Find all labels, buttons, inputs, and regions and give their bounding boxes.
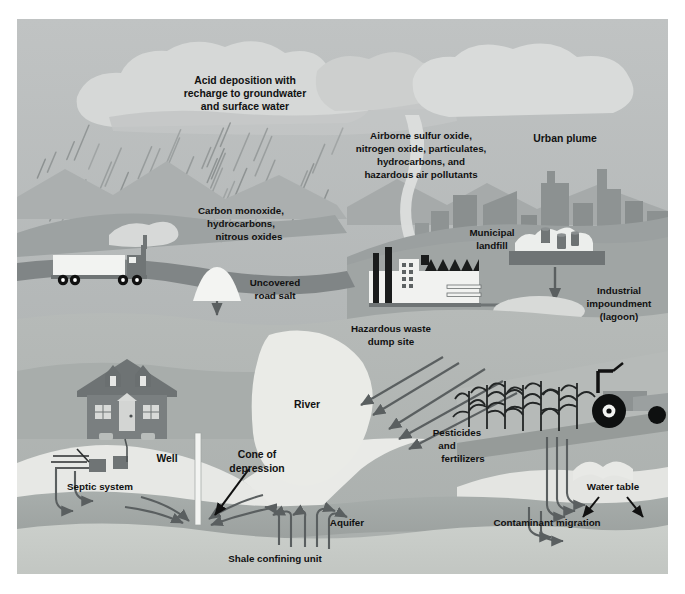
svg-text:landfill: landfill bbox=[476, 240, 508, 251]
subsurface-block bbox=[17, 310, 668, 574]
svg-text:hydrocarbons, and: hydrocarbons, and bbox=[377, 156, 465, 167]
svg-text:Uncovered: Uncovered bbox=[250, 277, 301, 288]
label-urban-plume: Urban plume bbox=[533, 133, 597, 144]
svg-text:road salt: road salt bbox=[255, 290, 297, 301]
factory-base-shadow bbox=[369, 303, 481, 307]
well bbox=[195, 433, 201, 525]
svg-text:dump site: dump site bbox=[368, 336, 415, 347]
label-aquifer: Aquifer bbox=[330, 517, 364, 528]
label-acid-deposition: Acid deposition with recharge to groundw… bbox=[184, 75, 306, 112]
tractor-front-wheel bbox=[648, 406, 666, 424]
svg-text:Industrial: Industrial bbox=[597, 285, 641, 296]
factory-smokestack bbox=[385, 247, 392, 305]
svg-text:nitrogen oxide, particulates,: nitrogen oxide, particulates, bbox=[356, 143, 487, 154]
svg-text:hydrocarbons,: hydrocarbons, bbox=[207, 218, 275, 229]
svg-text:impoundment: impoundment bbox=[587, 298, 652, 309]
svg-text:Hazardous waste: Hazardous waste bbox=[351, 323, 432, 334]
house-foundation-vent bbox=[99, 433, 113, 440]
svg-text:(lagoon): (lagoon) bbox=[600, 311, 639, 322]
house-door bbox=[119, 401, 135, 431]
label-river: River bbox=[294, 399, 320, 410]
svg-text:Airborne sulfur oxide,: Airborne sulfur oxide, bbox=[370, 130, 472, 141]
svg-text:fertilizers: fertilizers bbox=[441, 453, 485, 464]
svg-text:Municipal: Municipal bbox=[469, 227, 514, 238]
svg-text:hazardous air pollutants: hazardous air pollutants bbox=[364, 169, 478, 180]
landfill-barrel bbox=[557, 235, 566, 249]
svg-text:depression: depression bbox=[229, 463, 284, 474]
label-septic-system: Septic system bbox=[67, 481, 133, 492]
factory-roof-vent bbox=[421, 255, 429, 265]
well-casing bbox=[195, 433, 201, 525]
label-water-table: Water table bbox=[587, 481, 640, 492]
label-contaminant-migration: Contaminant migration bbox=[493, 517, 600, 528]
house-foundation-vent bbox=[141, 433, 155, 440]
truck-trailer bbox=[53, 255, 125, 277]
svg-text:nitrous oxides: nitrous oxides bbox=[216, 231, 284, 242]
groundwater-contamination-diagram: Acid deposition with recharge to groundw… bbox=[17, 19, 668, 574]
figure-root: Acid deposition with recharge to groundw… bbox=[0, 0, 685, 594]
factory-smokestack bbox=[373, 253, 379, 305]
svg-text:Cone of: Cone of bbox=[238, 449, 277, 460]
svg-text:recharge to groundwater: recharge to groundwater bbox=[184, 88, 306, 99]
landfill-barrel bbox=[571, 233, 579, 246]
svg-text:Carbon monoxide,: Carbon monoxide, bbox=[198, 205, 284, 216]
svg-text:and surface water: and surface water bbox=[201, 101, 289, 112]
septic-distribution-box bbox=[113, 456, 128, 469]
label-well: Well bbox=[156, 453, 177, 464]
landfill-liner bbox=[509, 251, 605, 265]
septic-tank bbox=[89, 459, 106, 472]
svg-text:Pesticides: Pesticides bbox=[433, 427, 482, 438]
svg-text:and: and bbox=[438, 440, 455, 451]
label-shale-confining-unit: Shale confining unit bbox=[228, 553, 322, 564]
svg-text:Acid deposition with: Acid deposition with bbox=[194, 75, 296, 86]
diagram-canvas: Acid deposition with recharge to groundw… bbox=[17, 19, 668, 574]
